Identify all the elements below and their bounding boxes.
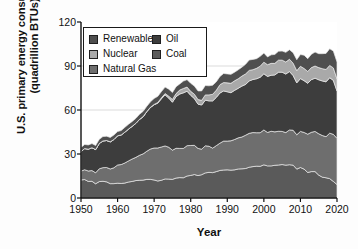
legend-swatch-icon (89, 35, 98, 44)
x-tick-label: 2000 (252, 203, 275, 215)
x-tick-label: 1960 (106, 203, 129, 215)
legend-label: Nuclear (103, 49, 137, 59)
legend-swatch-icon (89, 65, 98, 74)
x-tick-label: 2010 (289, 203, 312, 215)
legend-item[interactable]: Coal (152, 47, 187, 61)
x-tick-label: 1980 (179, 203, 202, 215)
legend-item[interactable]: Nuclear (89, 47, 158, 61)
legend-column-left: RenewablesNuclearNatural Gas (89, 32, 158, 77)
legend-label: Renewables (103, 34, 158, 44)
legend-column-right: OilCoal (152, 32, 187, 62)
y-tick-label: 120 (50, 16, 76, 28)
chart-figure: U.S. primary energy consumption (quadril… (0, 0, 358, 249)
legend-item[interactable]: Oil (152, 32, 187, 46)
x-axis-title: Year (81, 226, 337, 238)
legend-label: Natural Gas (103, 64, 156, 74)
y-tick-label: 90 (50, 60, 76, 72)
legend-item[interactable]: Renewables (89, 32, 158, 46)
legend-swatch-icon (89, 50, 98, 59)
x-tick-label: 1950 (69, 203, 92, 215)
y-tick-label: 60 (50, 104, 76, 116)
x-tick-label: 1970 (142, 203, 165, 215)
chart-legend: RenewablesNuclearNatural Gas OilCoal (83, 27, 207, 77)
x-tick-label: 2020 (325, 203, 348, 215)
legend-label: Coal (166, 49, 187, 59)
legend-swatch-icon (152, 35, 161, 44)
legend-item[interactable]: Natural Gas (89, 62, 158, 76)
x-tick-label: 1990 (216, 203, 239, 215)
legend-label: Oil (166, 34, 178, 44)
y-tick-label: 30 (50, 148, 76, 160)
legend-swatch-icon (152, 50, 161, 59)
